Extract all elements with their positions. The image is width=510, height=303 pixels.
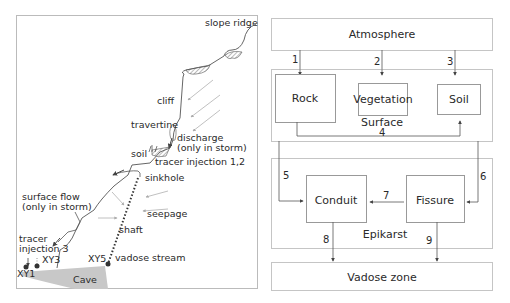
label-sinkhole: sinkhole xyxy=(145,172,185,183)
karst-cross-section: slope ridge cliff travertine discharge (… xyxy=(17,16,258,290)
flow-6-label: 6 xyxy=(480,171,486,182)
flow-7-label: 7 xyxy=(383,190,389,201)
label-discharge-storm: (only in storm) xyxy=(177,142,247,153)
flow-9-label: 9 xyxy=(426,235,432,246)
atmosphere-label: Atmosphere xyxy=(349,28,416,41)
label-xy5: XY5 xyxy=(88,253,106,264)
fissure-label: Fissure xyxy=(416,194,454,207)
soil-patch-middle xyxy=(186,65,210,74)
flow-5-label: 5 xyxy=(283,170,289,181)
vegetation-label: Vegetation xyxy=(353,93,412,106)
label-cliff: cliff xyxy=(157,95,175,106)
label-vadose-stream: vadose stream xyxy=(115,252,185,263)
label-soil: soil xyxy=(131,148,147,159)
label-tracer-injection-1-2: tracer injection 1,2 xyxy=(155,156,245,167)
label-seepage: seepage xyxy=(147,208,188,219)
label-travertine: travertine xyxy=(131,119,178,130)
label-xy3: XY3 xyxy=(42,254,60,265)
vadose-zone-label: Vadose zone xyxy=(347,271,417,284)
flow-6-arrow xyxy=(467,141,478,202)
label-surface-flow-storm: (only in storm) xyxy=(22,201,92,212)
conduit-label: Conduit xyxy=(315,194,358,207)
flow-diagram: Atmosphere 1 2 3 Rock Vegetation Soil Su… xyxy=(272,19,493,291)
flow-4-label: 4 xyxy=(379,127,385,138)
soil-patch-upper xyxy=(225,51,242,58)
flow-1-label: 1 xyxy=(292,54,298,65)
label-cave: Cave xyxy=(73,274,97,285)
label-injection-3: injection 3 xyxy=(19,243,69,254)
label-shaft: shaft xyxy=(119,224,143,235)
flow-8-label: 8 xyxy=(323,234,329,245)
surface-flow-path xyxy=(58,212,80,242)
flow-3-label: 3 xyxy=(447,56,453,67)
label-slope-ridge: slope ridge xyxy=(205,17,258,28)
flow-2-label: 2 xyxy=(374,56,380,67)
label-xy1: XY1 xyxy=(17,268,35,279)
rock-label: Rock xyxy=(292,92,319,105)
figure-canvas: slope ridge cliff travertine discharge (… xyxy=(0,0,510,303)
epikarst-label: Epikarst xyxy=(363,228,408,241)
soil-label: Soil xyxy=(449,93,469,106)
